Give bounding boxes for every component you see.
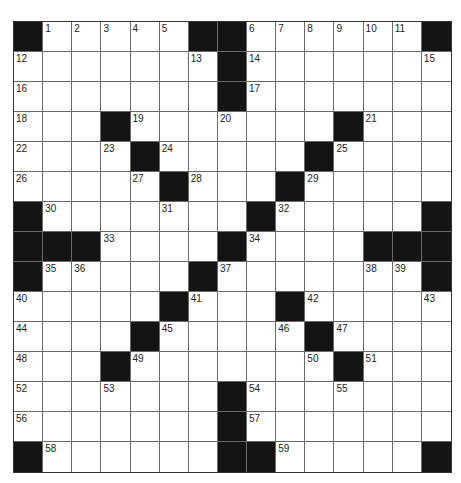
grid-cell[interactable]: 54 <box>247 382 276 412</box>
grid-cell[interactable]: 45 <box>160 322 189 352</box>
grid-cell[interactable] <box>305 52 334 82</box>
grid-cell[interactable] <box>247 322 276 352</box>
grid-cell[interactable] <box>72 292 101 322</box>
grid-cell[interactable] <box>364 142 393 172</box>
grid-cell[interactable]: 37 <box>218 262 247 292</box>
grid-cell[interactable] <box>101 442 130 472</box>
grid-cell[interactable] <box>276 82 305 112</box>
grid-cell[interactable] <box>305 412 334 442</box>
grid-cell[interactable]: 26 <box>14 172 43 202</box>
grid-cell[interactable] <box>43 292 72 322</box>
grid-cell[interactable]: 21 <box>364 112 393 142</box>
grid-cell[interactable] <box>247 112 276 142</box>
grid-cell[interactable] <box>43 112 72 142</box>
grid-cell[interactable]: 17 <box>247 82 276 112</box>
grid-cell[interactable] <box>218 202 247 232</box>
grid-cell[interactable] <box>364 202 393 232</box>
grid-cell[interactable] <box>160 442 189 472</box>
grid-cell[interactable] <box>189 202 218 232</box>
grid-cell[interactable] <box>393 322 422 352</box>
grid-cell[interactable] <box>43 382 72 412</box>
grid-cell[interactable] <box>43 352 72 382</box>
grid-cell[interactable] <box>72 52 101 82</box>
grid-cell[interactable] <box>160 382 189 412</box>
grid-cell[interactable]: 33 <box>101 232 130 262</box>
grid-cell[interactable]: 15 <box>422 52 451 82</box>
grid-cell[interactable]: 46 <box>276 322 305 352</box>
grid-cell[interactable] <box>101 262 130 292</box>
grid-cell[interactable]: 31 <box>160 202 189 232</box>
grid-cell[interactable] <box>276 412 305 442</box>
grid-cell[interactable] <box>334 262 363 292</box>
grid-cell[interactable] <box>334 172 363 202</box>
grid-cell[interactable]: 14 <box>247 52 276 82</box>
grid-cell[interactable] <box>276 352 305 382</box>
grid-cell[interactable] <box>72 82 101 112</box>
grid-cell[interactable]: 24 <box>160 142 189 172</box>
grid-cell[interactable] <box>247 352 276 382</box>
grid-cell[interactable] <box>160 412 189 442</box>
grid-cell[interactable]: 40 <box>14 292 43 322</box>
grid-cell[interactable] <box>364 172 393 202</box>
grid-cell[interactable] <box>189 442 218 472</box>
grid-cell[interactable] <box>43 322 72 352</box>
grid-cell[interactable] <box>393 202 422 232</box>
grid-cell[interactable] <box>276 52 305 82</box>
grid-cell[interactable] <box>101 292 130 322</box>
grid-cell[interactable] <box>422 142 451 172</box>
grid-cell[interactable] <box>101 412 130 442</box>
grid-cell[interactable] <box>160 52 189 82</box>
grid-cell[interactable]: 42 <box>305 292 334 322</box>
grid-cell[interactable] <box>393 292 422 322</box>
grid-cell[interactable] <box>334 52 363 82</box>
grid-cell[interactable] <box>393 172 422 202</box>
grid-cell[interactable] <box>160 112 189 142</box>
grid-cell[interactable]: 28 <box>189 172 218 202</box>
grid-cell[interactable] <box>393 442 422 472</box>
grid-cell[interactable]: 55 <box>334 382 363 412</box>
grid-cell[interactable] <box>101 82 130 112</box>
grid-cell[interactable]: 36 <box>72 262 101 292</box>
grid-cell[interactable] <box>334 232 363 262</box>
grid-cell[interactable] <box>72 412 101 442</box>
grid-cell[interactable] <box>131 292 160 322</box>
grid-cell[interactable]: 43 <box>422 292 451 322</box>
grid-cell[interactable] <box>393 142 422 172</box>
grid-cell[interactable] <box>131 382 160 412</box>
grid-cell[interactable]: 56 <box>14 412 43 442</box>
grid-cell[interactable] <box>364 382 393 412</box>
grid-cell[interactable] <box>72 112 101 142</box>
grid-cell[interactable]: 29 <box>305 172 334 202</box>
grid-cell[interactable]: 51 <box>364 352 393 382</box>
grid-cell[interactable]: 25 <box>334 142 363 172</box>
grid-cell[interactable] <box>364 52 393 82</box>
grid-cell[interactable] <box>160 82 189 112</box>
grid-cell[interactable] <box>131 412 160 442</box>
grid-cell[interactable] <box>131 52 160 82</box>
grid-cell[interactable] <box>364 412 393 442</box>
grid-cell[interactable] <box>72 442 101 472</box>
grid-cell[interactable] <box>43 52 72 82</box>
grid-cell[interactable]: 16 <box>14 82 43 112</box>
grid-cell[interactable]: 41 <box>189 292 218 322</box>
grid-cell[interactable]: 47 <box>334 322 363 352</box>
grid-cell[interactable] <box>276 112 305 142</box>
grid-cell[interactable] <box>101 52 130 82</box>
grid-cell[interactable]: 58 <box>43 442 72 472</box>
grid-cell[interactable] <box>422 322 451 352</box>
grid-cell[interactable] <box>393 52 422 82</box>
grid-cell[interactable] <box>247 262 276 292</box>
grid-cell[interactable] <box>131 82 160 112</box>
grid-cell[interactable] <box>334 412 363 442</box>
grid-cell[interactable] <box>422 352 451 382</box>
grid-cell[interactable]: 32 <box>276 202 305 232</box>
grid-cell[interactable] <box>131 262 160 292</box>
grid-cell[interactable] <box>364 82 393 112</box>
grid-cell[interactable]: 59 <box>276 442 305 472</box>
grid-cell[interactable]: 5 <box>160 22 189 52</box>
grid-cell[interactable] <box>334 202 363 232</box>
grid-cell[interactable] <box>276 382 305 412</box>
grid-cell[interactable]: 9 <box>334 22 363 52</box>
grid-cell[interactable] <box>43 142 72 172</box>
grid-cell[interactable] <box>422 82 451 112</box>
